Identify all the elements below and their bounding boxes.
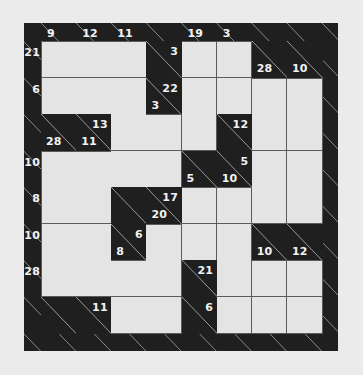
clue-block: 12 <box>217 114 253 151</box>
row-clue-cell: 10 <box>24 151 41 188</box>
down-clue: 10 <box>292 63 308 74</box>
across-clue: 6 <box>135 229 143 240</box>
entry-cell[interactable] <box>182 187 218 224</box>
clue-block: 12 <box>287 224 323 261</box>
entry-cell[interactable] <box>287 114 323 151</box>
down-clue: 10 <box>257 246 273 257</box>
across-clue: 21 <box>24 47 40 58</box>
clue-block: 6 <box>182 297 218 334</box>
clue-block: 223 <box>146 78 182 115</box>
column-clue-cell: 19 <box>182 23 217 41</box>
entry-cell[interactable] <box>252 297 288 334</box>
entry-cell[interactable] <box>76 41 112 78</box>
row-clue-cell: 10 <box>24 224 41 261</box>
entry-cell[interactable] <box>287 151 323 188</box>
entry-cell[interactable] <box>41 78 77 115</box>
column-clue-cell: 12 <box>76 23 111 41</box>
down-clue: 28 <box>46 136 62 147</box>
entry-cell[interactable] <box>146 297 182 334</box>
row-clue-cell: 6 <box>24 78 41 115</box>
down-clue: 11 <box>81 136 97 147</box>
down-clue: 20 <box>151 209 167 220</box>
entry-cell[interactable] <box>111 151 147 188</box>
across-clue: 6 <box>205 302 213 313</box>
entry-cell[interactable] <box>146 114 182 151</box>
entry-cell[interactable] <box>111 260 147 297</box>
entry-cell[interactable] <box>252 187 288 224</box>
clue-block: 11 <box>76 297 112 334</box>
clue-block: 21 <box>182 260 218 297</box>
down-clue: 5 <box>187 173 195 184</box>
entry-cell[interactable] <box>252 151 288 188</box>
entry-cell[interactable] <box>41 260 77 297</box>
down-clue: 8 <box>116 246 124 257</box>
across-clue: 28 <box>24 266 40 277</box>
clue-block: 510 <box>217 151 253 188</box>
row-clue-cell: 28 <box>24 260 41 297</box>
entry-cell[interactable] <box>146 151 182 188</box>
column-clue-cell: 3 <box>217 23 252 41</box>
entry-cell[interactable] <box>217 41 253 78</box>
across-clue: 13 <box>92 119 108 130</box>
entry-cell[interactable] <box>146 224 182 261</box>
clue-block: 28 <box>41 114 77 151</box>
entry-cell[interactable] <box>76 78 112 115</box>
entry-cell[interactable] <box>217 260 253 297</box>
entry-cell[interactable] <box>252 78 288 115</box>
clue-divider <box>41 297 77 334</box>
entry-cell[interactable] <box>217 187 253 224</box>
clue-block: 68 <box>111 224 147 261</box>
down-clue: 11 <box>117 28 133 39</box>
column-clue-cell: 9 <box>41 23 76 41</box>
clue-block <box>111 187 147 224</box>
entry-cell[interactable] <box>182 114 218 151</box>
entry-cell[interactable] <box>111 41 147 78</box>
entry-cell[interactable] <box>217 78 253 115</box>
clue-block: 1311 <box>76 114 112 151</box>
down-clue: 12 <box>82 28 98 39</box>
down-clue: 19 <box>188 28 204 39</box>
entry-cell[interactable] <box>41 187 77 224</box>
entry-cell[interactable] <box>252 260 288 297</box>
entry-cell[interactable] <box>76 187 112 224</box>
across-clue: 3 <box>170 46 178 57</box>
entry-cell[interactable] <box>41 41 77 78</box>
clue-block: 10 <box>287 41 323 78</box>
entry-cell[interactable] <box>76 151 112 188</box>
entry-cell[interactable] <box>217 297 253 334</box>
across-clue: 10 <box>24 230 40 241</box>
entry-cell[interactable] <box>287 297 323 334</box>
across-clue: 17 <box>162 192 178 203</box>
entry-cell[interactable] <box>287 260 323 297</box>
across-clue: 8 <box>32 193 40 204</box>
row-clue-cell: 8 <box>24 187 41 224</box>
across-clue: 21 <box>197 265 213 276</box>
clue-block: 3 <box>146 41 182 78</box>
across-clue: 12 <box>233 119 249 130</box>
down-clue: 10 <box>222 173 238 184</box>
kakuro-board: 9121119321610810283281022328131112551017… <box>24 23 338 351</box>
entry-cell[interactable] <box>146 260 182 297</box>
entry-cell[interactable] <box>182 78 218 115</box>
row-clue-cell: 21 <box>24 41 41 78</box>
entry-cell[interactable] <box>111 297 147 334</box>
entry-cell[interactable] <box>287 78 323 115</box>
across-clue: 6 <box>32 84 40 95</box>
entry-cell[interactable] <box>182 41 218 78</box>
down-clue: 9 <box>47 28 55 39</box>
entry-cell[interactable] <box>287 187 323 224</box>
entry-cell[interactable] <box>111 78 147 115</box>
entry-cell[interactable] <box>41 151 77 188</box>
entry-cell[interactable] <box>217 224 253 261</box>
entry-cell[interactable] <box>76 260 112 297</box>
clue-block: 10 <box>252 224 288 261</box>
entry-cell[interactable] <box>76 224 112 261</box>
clue-divider <box>111 187 147 224</box>
entry-cell[interactable] <box>252 114 288 151</box>
clue-block: 1720 <box>146 187 182 224</box>
clue-block: 5 <box>182 151 218 188</box>
entry-cell[interactable] <box>111 114 147 151</box>
entry-cell[interactable] <box>41 224 77 261</box>
across-clue: 22 <box>162 83 178 94</box>
entry-cell[interactable] <box>182 224 218 261</box>
